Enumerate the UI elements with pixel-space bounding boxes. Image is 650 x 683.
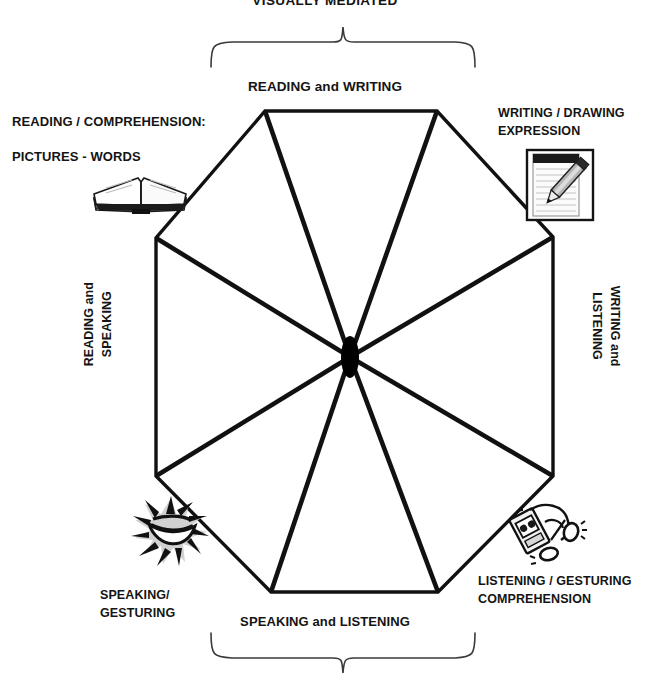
panel-label-right-line1: WRITING and: [605, 286, 623, 367]
top-brace-icon: [211, 27, 475, 67]
corner-label-top-right-line1: WRITING / DRAWING: [498, 104, 625, 122]
center-hub: [341, 336, 359, 378]
panel-label-right-line2: LISTENING: [587, 286, 605, 367]
panel-label-left: READING and SPEAKING: [80, 282, 116, 366]
panel-label-left-line2: SPEAKING: [98, 282, 116, 366]
corner-label-top-left-line2: PICTURES - WORDS: [12, 148, 206, 167]
corner-label-bottom-left: SPEAKING/ GESTURING: [100, 586, 175, 622]
corner-label-bottom-right-line2: COMPREHENSION: [478, 590, 632, 608]
corner-label-bottom-left-line1: SPEAKING/: [100, 586, 175, 604]
corner-label-top-right-line2: EXPRESSION: [498, 122, 625, 140]
corner-label-top-left: READING / COMPREHENSION: PICTURES - WORD…: [12, 113, 206, 167]
headphones-player-icon: [509, 505, 587, 564]
open-book-icon: [94, 178, 186, 214]
corner-label-bottom-right-line1: LISTENING / GESTURING: [478, 572, 632, 590]
corner-label-bottom-right: LISTENING / GESTURING COMPREHENSION: [478, 572, 632, 608]
bottom-brace-icon: [211, 633, 475, 673]
notepad-pencil-icon: [527, 150, 593, 220]
panel-label-bottom: SPEAKING and LISTENING: [0, 613, 650, 632]
corner-label-top-right: WRITING / DRAWING EXPRESSION: [498, 104, 625, 140]
panel-label-top: READING and WRITING: [0, 77, 650, 97]
diagram-canvas: VISUALLY MEDIATED READING and WRITING SP…: [0, 0, 650, 683]
panel-label-right: WRITING and LISTENING: [587, 286, 623, 367]
diagram-title: VISUALLY MEDIATED: [0, 0, 650, 11]
panel-label-left-line1: READING and: [80, 282, 98, 366]
corner-label-top-left-line1: READING / COMPREHENSION:: [12, 114, 206, 129]
corner-label-bottom-left-line2: GESTURING: [100, 604, 175, 622]
